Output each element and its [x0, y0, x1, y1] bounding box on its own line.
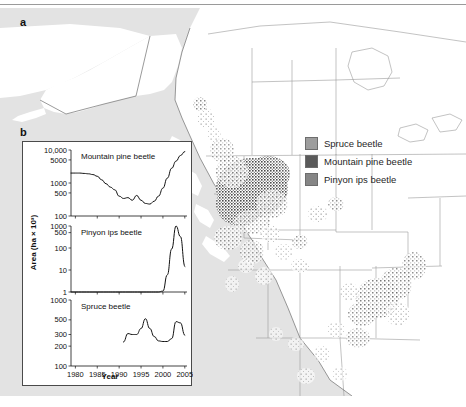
- chart-inner: 1005001000500010,00011010050010001002003…: [23, 142, 191, 385]
- chart-x-axis-label: Year: [35, 372, 185, 381]
- chart-panel: 1005001000500010,00011010050010001002003…: [22, 141, 192, 386]
- legend-swatch-icon: [305, 137, 318, 150]
- legend-item-pinyon-ips-beetle: Pinyon ips beetle: [305, 171, 455, 188]
- legend-swatch-icon: [305, 173, 318, 186]
- svg-text:100: 100: [54, 362, 67, 371]
- svg-text:1000: 1000: [50, 222, 67, 231]
- svg-text:200: 200: [54, 342, 67, 351]
- legend-item-label: Mountain pine beetle: [324, 156, 412, 167]
- svg-text:500: 500: [54, 189, 67, 198]
- legend-item-spruce-beetle: Spruce beetle: [305, 135, 455, 152]
- svg-text:1000: 1000: [50, 179, 67, 188]
- svg-text:10,000: 10,000: [44, 146, 67, 155]
- figure-root: a b Spruce beetle Mountain pine beetle P…: [0, 0, 466, 407]
- legend-item-label: Spruce beetle: [324, 138, 383, 149]
- map-legend: Spruce beetle Mountain pine beetle Pinyo…: [305, 135, 455, 189]
- svg-text:1000: 1000: [50, 296, 67, 305]
- panel-label-a: a: [20, 16, 26, 28]
- top-divider-rule: [0, 4, 466, 5]
- subplot-title-mountain-pine-beetle: Mountain pine beetle: [81, 152, 155, 161]
- chart-y-axis-label: Area (ha × 10³): [29, 215, 38, 270]
- beetle-area-timeseries-chart: 1005001000500010,00011010050010001002003…: [23, 142, 193, 387]
- legend-swatch-icon: [305, 155, 318, 168]
- svg-text:5000: 5000: [50, 156, 67, 165]
- subplot-title-spruce-beetle: Spruce beetle: [81, 302, 130, 311]
- series-line: [124, 319, 185, 342]
- legend-item-mountain-pine-beetle: Mountain pine beetle: [305, 153, 455, 170]
- svg-text:100: 100: [54, 212, 67, 221]
- subplot-title-pinyon-ips-beetle: Pinyon ips beetle: [81, 228, 142, 237]
- panel-label-b: b: [20, 126, 27, 138]
- legend-item-label: Pinyon ips beetle: [324, 174, 396, 185]
- svg-text:100: 100: [54, 244, 67, 253]
- svg-text:10: 10: [59, 266, 67, 275]
- svg-text:500: 500: [54, 315, 67, 324]
- svg-text:300: 300: [54, 330, 67, 339]
